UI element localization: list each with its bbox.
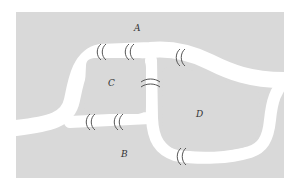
konigsberg-map	[0, 0, 299, 191]
region-label-a: A	[134, 24, 141, 33]
region-label-d: D	[196, 110, 203, 119]
island-c	[84, 58, 146, 114]
region-label-b: B	[121, 150, 128, 159]
region-label-c: C	[108, 79, 115, 88]
